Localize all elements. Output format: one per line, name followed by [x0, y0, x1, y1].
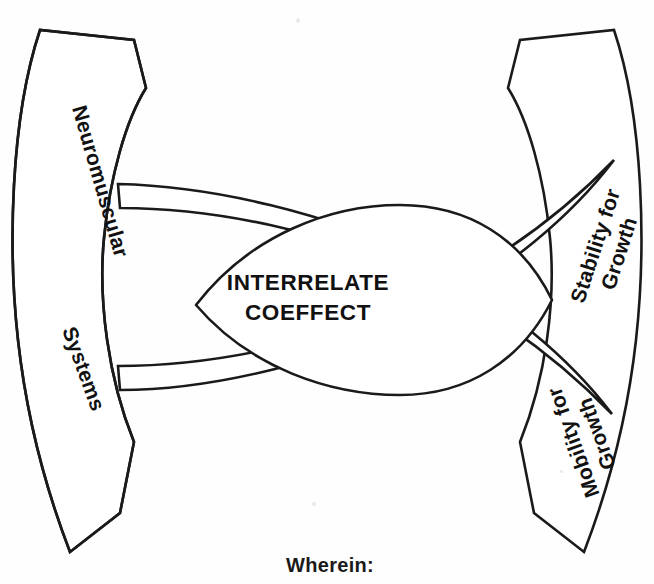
center-label-line2: COEFFECT	[245, 300, 371, 325]
center-label-line1: INTERRELATE	[227, 270, 389, 295]
interrelate-coeffect-diagram: Neuromuscular Systems Stability for Grow…	[0, 0, 654, 584]
scan-speck	[560, 470, 563, 473]
scan-speck	[296, 18, 300, 23]
footer-wherein-label: Wherein:	[286, 554, 374, 576]
diagram-canvas: Neuromuscular Systems Stability for Grow…	[0, 0, 654, 584]
scan-speck	[312, 502, 316, 506]
